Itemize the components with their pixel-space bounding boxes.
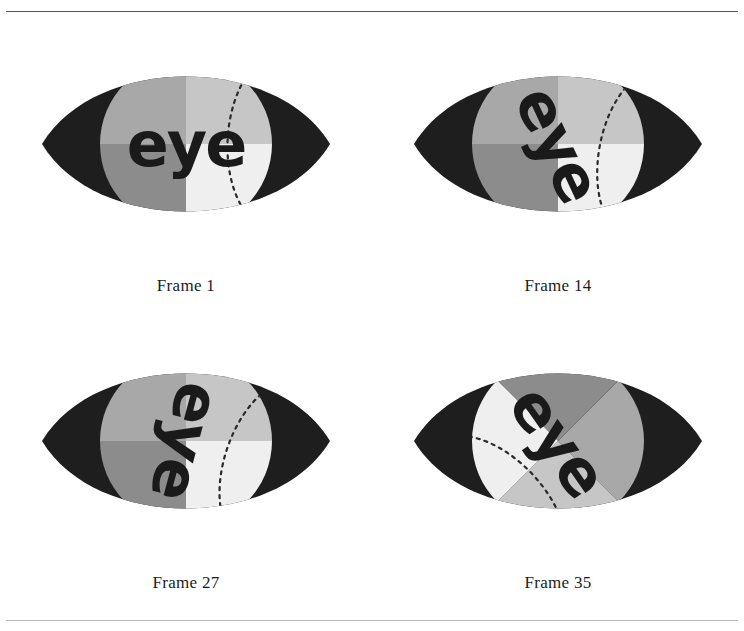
- eye-figure-27: eye: [36, 329, 336, 559]
- frame-cell-35: eye Frame 35: [372, 317, 744, 614]
- eye-word-group-1: eye: [127, 108, 246, 181]
- bottom-divider-rule: [6, 620, 738, 621]
- page-canvas: eye Frame 1: [0, 0, 744, 631]
- top-divider-rule: [6, 11, 738, 12]
- frame-cell-27: eye Frame 27: [0, 317, 372, 614]
- eye-figure-1: eye: [36, 32, 336, 262]
- eye-illustration-27: eye: [36, 329, 336, 559]
- eye-figure-35: eye: [408, 329, 708, 559]
- eye-word-text-1: eye: [127, 108, 246, 181]
- eye-figure-14: eye: [408, 32, 708, 262]
- frame-caption-14: Frame 14: [524, 276, 591, 296]
- frame-caption-35: Frame 35: [524, 573, 591, 593]
- eye-illustration-35: eye: [408, 329, 708, 559]
- frame-caption-27: Frame 27: [152, 573, 219, 593]
- frame-cell-14: eye Frame 14: [372, 20, 744, 317]
- eye-illustration-14: eye: [408, 32, 708, 262]
- frame-caption-1: Frame 1: [157, 276, 215, 296]
- frame-grid: eye Frame 1: [0, 20, 744, 616]
- eye-illustration-1: eye: [36, 32, 336, 262]
- frame-cell-1: eye Frame 1: [0, 20, 372, 317]
